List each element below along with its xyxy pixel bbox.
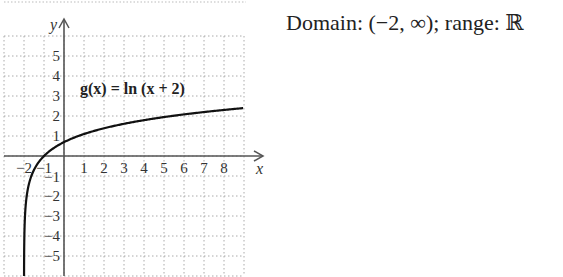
svg-text:3: 3 [120,160,128,176]
svg-text:1: 1 [53,128,61,144]
svg-text:5: 5 [53,48,61,64]
svg-text:5: 5 [160,160,168,176]
function-label: g(x) = ln (x + 2) [80,80,185,98]
svg-text:2: 2 [100,160,108,176]
svg-text:−3: −3 [44,208,60,224]
grid [4,2,246,276]
svg-text:−5: −5 [44,248,60,264]
svg-text:2: 2 [53,108,61,124]
svg-text:1: 1 [80,160,88,176]
y-axis-label: y [48,16,58,34]
svg-text:−2: −2 [44,188,60,204]
x-axis-label: x [255,160,263,177]
svg-text:4: 4 [53,68,61,84]
svg-text:6: 6 [180,160,188,176]
domain-range-caption: Domain: (−2, ∞); range: ℝ [286,10,524,36]
svg-text:7: 7 [200,160,208,176]
graph-ln-x-plus-2: −2−11234567854321−1−2−3−4−5 g(x) = ln (x… [0,0,270,277]
svg-text:−2: −2 [16,160,32,176]
svg-text:−1: −1 [44,169,60,185]
svg-text:−4: −4 [44,228,60,244]
svg-text:4: 4 [140,160,148,176]
svg-text:8: 8 [220,160,228,176]
svg-text:3: 3 [53,88,61,104]
